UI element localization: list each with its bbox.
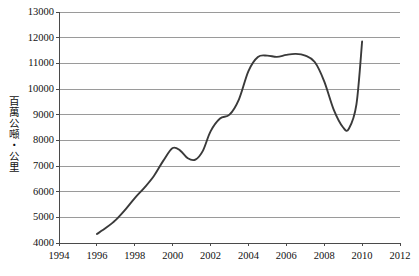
data-series-layer (97, 42, 362, 235)
series-line-0 (97, 42, 362, 235)
chart-container: 百萬公噸‧公里 40005000600070008000900010000110… (0, 0, 419, 276)
axis-lines (56, 12, 400, 243)
plot-area (0, 0, 419, 276)
